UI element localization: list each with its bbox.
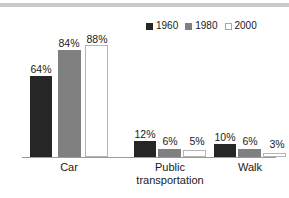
bar-label-car-2000: 88% <box>78 34 116 45</box>
bar-public-2000[interactable] <box>183 150 206 157</box>
bar-car-2000[interactable] <box>85 45 108 157</box>
x-tick-label-car: Car <box>34 161 104 174</box>
legend-swatch-1980-icon <box>185 23 192 30</box>
bar-car-1960[interactable] <box>30 76 52 157</box>
x-tick-label-public-line1: Public <box>118 161 222 174</box>
legend-swatch-1960-icon <box>146 23 153 30</box>
bar-car-1980[interactable] <box>58 50 81 157</box>
top-divider-band <box>0 3 289 7</box>
plot-area: 64% 84% 88% 12% 6% 5% 10% 6% 3% <box>22 30 276 157</box>
bar-label-walk-2000: 3% <box>258 139 289 150</box>
x-tick-label-walk-line1: Walk <box>218 161 282 174</box>
x-tick-label-public-line2: transportation <box>118 174 222 187</box>
bar-group-public-transportation: 12% 6% 5% <box>134 30 204 157</box>
x-tick-label-car-line1: Car <box>34 161 104 174</box>
bar-label-car-1960: 64% <box>22 64 60 75</box>
x-axis-tick-labels: Car Public transportation Walk <box>22 161 276 198</box>
bar-walk-1980[interactable] <box>238 149 261 157</box>
x-tick-label-public-transportation: Public transportation <box>118 161 222 187</box>
bar-group-car: 64% 84% 88% <box>26 30 110 157</box>
legend-swatch-2000-icon <box>225 23 232 30</box>
bar-chart: 1960 1980 2000 64% 84% 88% 12% 6% <box>0 0 289 198</box>
x-axis-line <box>22 157 276 158</box>
bar-group-walk: 10% 6% 3% <box>214 30 284 157</box>
x-tick-label-walk: Walk <box>218 161 282 174</box>
bar-public-1980[interactable] <box>158 149 181 157</box>
